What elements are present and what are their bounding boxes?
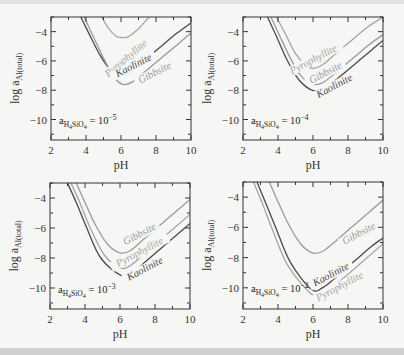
x-axis-title: pH [306, 158, 321, 172]
chart-panel-bottom-left: GibbsitePyrophylliteKaolinite246810−4−6−… [7, 183, 196, 341]
curve-label-gibbsite: Gibbsite [340, 220, 377, 247]
y-tick-label: −6 [35, 55, 47, 67]
x-tick-label: 10 [378, 144, 390, 156]
y-axis-title: log aAl(total) [200, 220, 216, 272]
bottom-border [0, 348, 404, 355]
x-tick-label: 8 [152, 313, 158, 325]
x-tick-label: 4 [83, 144, 89, 156]
y-tick-label: −4 [34, 192, 46, 204]
x-tick-label: 2 [240, 144, 246, 156]
x-tick-label: 2 [47, 313, 53, 325]
x-tick-label: 6 [118, 144, 124, 156]
x-tick-label: 4 [275, 144, 281, 156]
x-tick-label: 8 [153, 144, 159, 156]
silica-activity-annotation: aH4SiO4 = 10−4 [251, 113, 309, 130]
y-tick-label: −10 [222, 282, 240, 294]
chart-panel-top-left: PyrophylliteKaoliniteGibbsite246810−4−6−… [8, 17, 197, 172]
y-tick-label: −4 [35, 26, 47, 38]
x-tick-label: 10 [186, 144, 198, 156]
curve-gibbsite [269, 182, 383, 254]
y-tick-label: −4 [227, 26, 239, 38]
y-tick-label: −10 [222, 114, 240, 126]
x-tick-label: 2 [48, 144, 54, 156]
silica-activity-annotation: aH4SiO4 = 10−2 [251, 281, 309, 298]
x-tick-label: 6 [117, 313, 123, 325]
x-axis-title: pH [306, 327, 321, 341]
silica-activity-annotation: aH4SiO4 = 10−5 [59, 113, 117, 130]
silica-activity-annotation: aH4SiO4 = 10−3 [58, 282, 116, 299]
x-tick-label: 10 [185, 313, 197, 325]
curve-pyrophyllite [102, 17, 149, 38]
y-tick-label: −10 [29, 282, 47, 294]
x-axis-title: pH [114, 158, 129, 172]
x-tick-label: 10 [378, 313, 390, 325]
x-tick-label: 4 [275, 313, 281, 325]
y-tick-label: −8 [35, 84, 47, 96]
x-tick-label: 8 [345, 144, 351, 156]
y-axis-title: log aAl(total) [8, 53, 24, 105]
mineral-stability-charts: PyrophylliteKaoliniteGibbsite246810−4−6−… [0, 0, 404, 355]
chart-panel-bottom-right: GibbsiteKaolinitePyrophyllite246810−4−6−… [200, 182, 389, 341]
x-tick-label: 2 [240, 313, 246, 325]
y-tick-label: −6 [227, 221, 239, 233]
chart-panel-top-right: PyrophylliteGibbsiteKaolinite246810−4−6−… [200, 17, 389, 172]
y-tick-label: −8 [34, 252, 46, 264]
y-tick-label: −6 [34, 222, 46, 234]
x-tick-label: 8 [345, 313, 351, 325]
y-axis-title: log aAl(total) [200, 53, 216, 105]
x-tick-label: 6 [310, 313, 316, 325]
y-tick-label: −10 [30, 114, 48, 126]
y-axis-title: log aAl(total) [7, 220, 23, 272]
y-tick-label: −8 [227, 84, 239, 96]
y-tick-label: −8 [227, 252, 239, 264]
y-tick-label: −4 [227, 191, 239, 203]
y-tick-label: −6 [227, 55, 239, 67]
x-axis-title: pH [113, 327, 128, 341]
x-tick-label: 4 [82, 313, 88, 325]
x-tick-label: 6 [310, 144, 316, 156]
